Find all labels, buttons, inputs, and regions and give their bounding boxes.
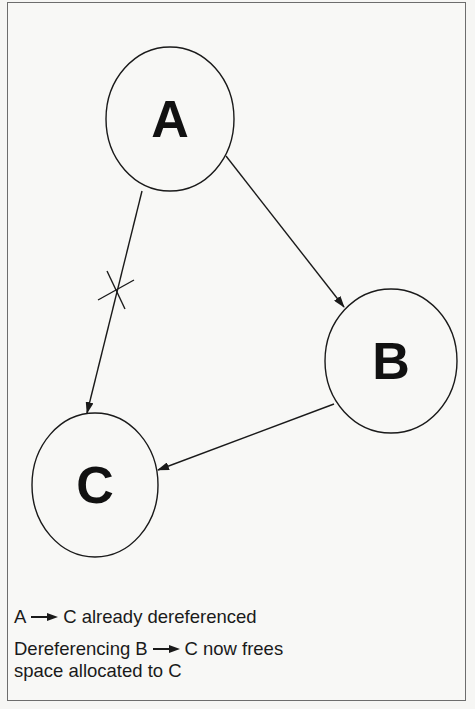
legend-line-space-allocated: space allocated to C (14, 660, 454, 682)
legend-to-node: C (185, 638, 198, 660)
legend-to-node: C (63, 606, 76, 628)
legend-block-frees-space: Dereferencing B C now frees space alloca… (14, 638, 454, 682)
legend-from-node: B (135, 638, 147, 660)
legend-text: space allocated to C (14, 660, 182, 682)
dereferenced-cross-icon (98, 271, 134, 309)
legend-line-already-dereferenced: A C already dereferenced (14, 606, 454, 628)
arrow-right-icon (153, 644, 180, 654)
node-a-label: A (151, 90, 189, 148)
edge-a-to-c (87, 191, 142, 413)
edge-b-to-c (158, 404, 334, 470)
legend-from-node: A (14, 606, 26, 628)
arrow-right-icon (31, 612, 58, 622)
node-c-label: C (76, 456, 114, 514)
node-c: C (32, 413, 158, 557)
legend: A C already dereferenced Dereferencing B… (14, 606, 454, 682)
reference-graph-diagram: A B C (0, 0, 475, 709)
legend-text: already dereferenced (82, 606, 257, 628)
node-b-label: B (372, 332, 410, 390)
edge-a-to-b (226, 156, 344, 307)
node-b: B (325, 289, 457, 433)
legend-text: now frees (203, 638, 283, 660)
node-a: A (106, 47, 234, 191)
legend-line-dereferencing: Dereferencing B C now frees (14, 638, 454, 660)
legend-prefix: Dereferencing (14, 638, 130, 660)
